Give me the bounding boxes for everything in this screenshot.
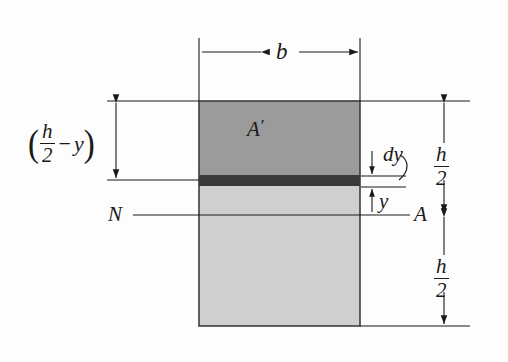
cross-section-body [199, 101, 360, 326]
left-dimension-label: ( h 2 − y ) [28, 121, 95, 166]
paren-close: ) [84, 126, 95, 161]
y-label: y [379, 191, 388, 212]
axis-label-a: A [414, 204, 427, 225]
dy-label: dy [383, 144, 403, 165]
upper-half-label: h 2 [434, 144, 449, 189]
left-dimension-lines [107, 101, 199, 180]
width-label-b: b [276, 40, 288, 63]
lower-half-label: h 2 [434, 256, 449, 301]
upper-area-label: A′ [247, 119, 264, 140]
differential-strip-fill [199, 175, 360, 186]
h-over-2-left: h 2 [40, 121, 55, 166]
prime-glyph: ′ [260, 116, 264, 135]
paren-open: ( [28, 126, 39, 161]
lower-area-fill [199, 186, 360, 326]
upper-area-fill [199, 101, 360, 175]
axis-label-n: N [108, 204, 122, 225]
beam-cross-section-diagram [0, 0, 508, 362]
y-variable-left: y [74, 133, 84, 155]
minus-sign: − [59, 133, 71, 155]
